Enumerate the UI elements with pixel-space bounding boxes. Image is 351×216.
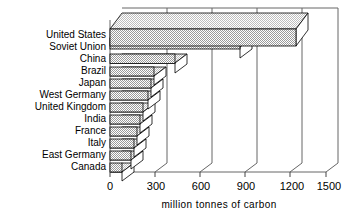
cat-label-east-germany: East Germany [42,149,106,160]
cat-label-japan: Japan [79,77,106,88]
x-axis-tick-labels: 0 300 600 900 1200 1500 [107,180,341,192]
bar-chart-container: United States Soviet Union China Brazil … [0,0,351,216]
x-tick-300: 300 [147,180,165,192]
x-tick-0: 0 [107,180,113,192]
cat-label-france: France [75,125,107,136]
category-axis-labels: United States Soviet Union China Brazil … [35,29,107,172]
x-axis-ticks [110,172,326,177]
cat-label-brazil: Brazil [81,65,106,76]
chart-canvas: United States Soviet Union China Brazil … [0,0,351,216]
cat-label-united-kingdom: United Kingdom [35,101,106,112]
cat-label-italy: Italy [88,137,106,148]
cat-label-soviet-union: Soviet Union [49,41,106,52]
bar-united-states[interactable] [110,13,308,46]
x-axis-title: million tonnes of carbon [161,199,276,210]
x-tick-1500: 1500 [317,180,341,192]
x-tick-1200: 1200 [280,180,304,192]
bar-canada[interactable] [110,163,134,181]
x-tick-600: 600 [192,180,210,192]
cat-label-canada: Canada [71,161,106,172]
cat-label-india: India [84,113,106,124]
x-tick-900: 900 [237,180,255,192]
cat-label-united-states: United States [46,29,106,40]
cat-label-china: China [80,53,107,64]
cat-label-west-germany: West Germany [40,89,107,100]
